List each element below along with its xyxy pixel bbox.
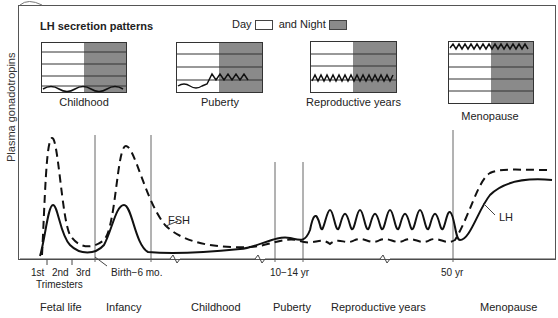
inset-caption-reproductive: Reproductive years	[296, 96, 411, 108]
inset-caption-menopause: Menopause	[440, 110, 540, 122]
tick-2nd: 2nd	[52, 267, 69, 278]
lh-label: LH	[499, 211, 513, 223]
legend-night-label: and Night	[279, 18, 326, 30]
tick-1st: 1st	[31, 267, 44, 278]
inset-reproductive	[310, 41, 397, 93]
legend-day-label: Day	[232, 18, 252, 30]
inset-caption-childhood: Childhood	[34, 96, 134, 108]
phase-infancy: Infancy	[106, 301, 141, 313]
inset-menopause	[448, 41, 534, 104]
fsh-label: FSH	[168, 214, 190, 226]
tick-puberty: 10−14 yr	[270, 267, 309, 278]
phase-reproductive-years: Reproductive years	[331, 301, 426, 313]
y-axis-label: Plasma gonadotropins	[5, 62, 19, 162]
trimesters-caption: Trimesters	[36, 279, 83, 290]
inset-childhood	[41, 42, 127, 93]
phase-puberty: Puberty	[273, 301, 311, 313]
inset-puberty	[176, 42, 263, 93]
tick-menopause: 50 yr	[441, 267, 463, 278]
legend: Day and Night	[232, 18, 350, 30]
tick-3rd: 3rd	[76, 267, 90, 278]
legend-day-swatch	[255, 20, 273, 30]
phase-childhood: Childhood	[191, 301, 241, 313]
inset-title: LH secretion patterns	[40, 20, 153, 32]
phase-fetal-life: Fetal life	[40, 301, 82, 313]
legend-night-swatch	[329, 20, 347, 30]
tick-birth: Birth−6 mo.	[111, 267, 162, 278]
inset-caption-puberty: Puberty	[170, 96, 270, 108]
phase-menopause: Menopause	[480, 301, 538, 313]
